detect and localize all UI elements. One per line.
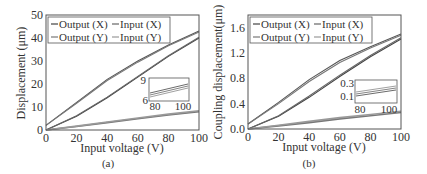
- x-tick-label: 0: [43, 131, 49, 145]
- legend-output-x: Output (X): [261, 18, 310, 31]
- legend-output-y: Output (Y): [59, 31, 108, 44]
- panel-a-x-axis-label: Input voltage (V): [80, 141, 163, 155]
- panel-b-x-axis-label: Input voltage (V): [282, 140, 365, 154]
- inset-b-xtick-left: 80: [355, 103, 367, 115]
- panel-b-label: (b): [303, 157, 316, 170]
- panel-a: 01020304050 020406080100 Displacement (μ…: [14, 8, 208, 170]
- panel-a-legend: Output (X) Input (X) Output (Y) Input (Y…: [48, 17, 170, 44]
- inset-a-ytick-bottom: 6: [143, 94, 149, 106]
- legend-output-x: Output (X): [59, 18, 108, 31]
- y-tick-label: 1.2: [230, 46, 245, 60]
- inset-b-xtick-right: 100: [381, 103, 398, 115]
- series-line: [248, 34, 401, 124]
- panel-b-y-axis-label: Coupling displacement(μm): [211, 5, 225, 140]
- y-tick-label: 0.4: [230, 97, 245, 111]
- x-tick-label: 0: [245, 130, 251, 144]
- inset-b-ytick-bottom: 0.1: [340, 90, 354, 102]
- x-tick-label: 100: [190, 131, 208, 145]
- panel-a-y-axis-label: Displacement (μm): [14, 27, 28, 120]
- panel-a-inset: 9 6 80 100: [141, 74, 192, 112]
- y-tick-label: 10: [31, 100, 43, 114]
- inset-a-ytick-top: 9: [141, 74, 147, 86]
- x-tick-label: 80: [364, 130, 376, 144]
- legend-input-x: Input (X): [120, 18, 162, 31]
- legend-input-y: Input (Y): [322, 31, 364, 44]
- panel-a-y-ticks: 01020304050: [31, 8, 43, 137]
- y-tick-label: 20: [31, 77, 43, 91]
- y-tick-label: 0.0: [230, 122, 245, 136]
- y-tick-label: 1.6: [230, 21, 245, 35]
- inset-b-ytick-top: 0.3: [340, 77, 354, 89]
- inset-a-xtick-left: 80: [150, 100, 162, 112]
- panel-b: 0.00.40.81.21.6 020406080100 Coupling di…: [211, 5, 410, 170]
- legend-input-y: Input (Y): [120, 31, 162, 44]
- inset-a-xtick-right: 100: [175, 100, 192, 112]
- x-tick-label: 100: [392, 130, 410, 144]
- figure: 01020304050 020406080100 Displacement (μ…: [0, 0, 427, 174]
- legend-output-y: Output (Y): [261, 31, 310, 44]
- y-tick-label: 50: [31, 8, 43, 22]
- y-tick-label: 40: [31, 31, 43, 45]
- x-tick-label: 80: [162, 131, 174, 145]
- panel-a-label: (a): [102, 157, 115, 170]
- y-tick-label: 0.8: [230, 71, 245, 85]
- legend-input-x: Input (X): [322, 18, 364, 31]
- panel-b-legend: Output (X) Input (X) Output (Y) Input (Y…: [250, 17, 372, 44]
- series-line: [248, 111, 401, 129]
- panel-b-y-ticks: 0.00.40.81.21.6: [230, 21, 245, 136]
- y-tick-label: 30: [31, 54, 43, 68]
- panel-b-inset: 0.3 0.1 80 100: [340, 77, 398, 115]
- series-line: [46, 111, 199, 130]
